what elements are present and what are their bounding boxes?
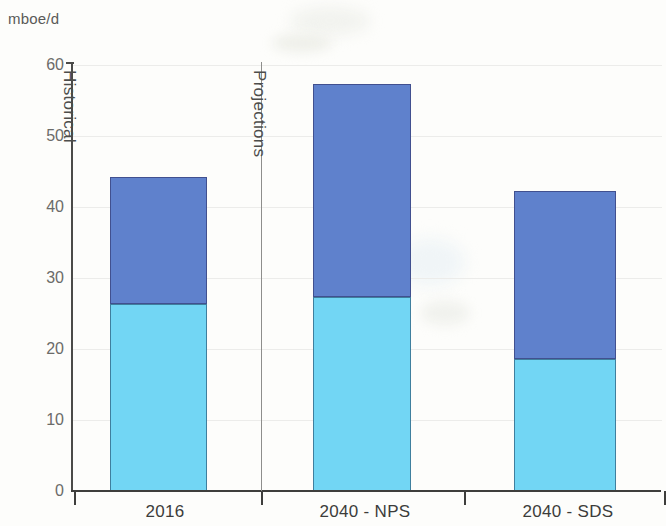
y-axis-tick-label: 40 [30,198,64,216]
bar [313,84,411,491]
x-axis-category-label: 2016 [145,502,184,522]
y-axis-tick-labels: 0102030405060 [8,0,64,526]
bar-segment-lower [110,304,207,491]
bar-segment-lower [313,297,411,491]
scan-artifact [290,6,370,36]
y-axis-top-cap [66,62,74,64]
gridline [72,65,662,66]
y-axis-tick-label: 10 [30,411,64,429]
stacked-bar-chart: mboe/d 0102030405060 Historical Projecti… [0,0,666,526]
bar-segment-upper [110,177,207,303]
region-label-projections: Projections [249,70,269,157]
bar-segment-lower [514,359,616,491]
x-axis-line [71,490,661,492]
bar [110,177,207,491]
y-axis-tick-label: 0 [30,482,64,500]
region-label-historical: Historical [59,70,79,143]
scan-artifact [272,34,332,52]
x-axis-tick [464,491,466,505]
x-axis-category-label: 2040 - SDS [523,502,614,522]
bar [514,191,616,491]
bar-segment-upper [514,191,616,359]
bar-segment-upper [313,84,411,297]
x-axis-category-label: 2040 - NPS [320,502,411,522]
x-axis-tick [261,491,263,505]
plot-area [72,60,662,492]
y-axis-tick-label: 20 [30,340,64,358]
y-axis-tick-label: 30 [30,269,64,287]
x-axis-tick [74,491,76,505]
